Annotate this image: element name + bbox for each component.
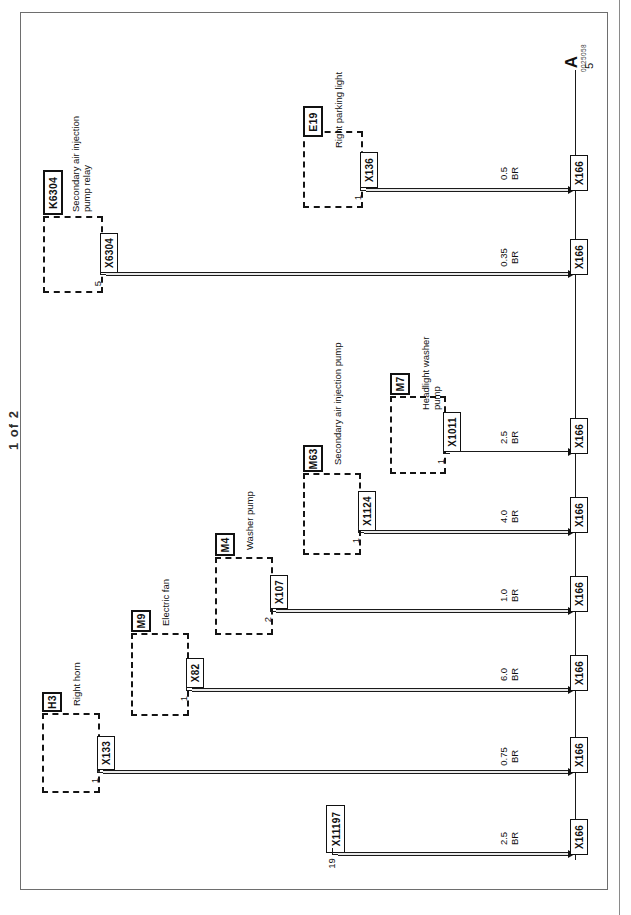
wiring-diagram-sheet: 1 of 2 A 5 0025058 E19 Right parking lig… [0, 0, 631, 915]
wire-color-text-h3: BR [508, 750, 519, 763]
connector-tag-x107: X107 [270, 575, 288, 609]
connector-tag-x11197: X11197 [326, 805, 345, 853]
component-id-label-k6304: K6304 [47, 177, 59, 209]
wire-gauge-h3: 0.75 BR [499, 737, 520, 777]
wire-gauge-text-m63: 4.0 [498, 510, 509, 523]
component-id-tag-k6304: K6304 [43, 170, 63, 215]
component-caption-h3: Right horn [72, 662, 83, 706]
wire-run-e19 [366, 188, 569, 192]
component-id-label-h3: H3 [46, 695, 58, 709]
connector-tag-x133: X133 [97, 736, 115, 770]
connector-label-x1124: X1124 [362, 496, 373, 525]
connector-label-x11197: X11197 [330, 812, 341, 847]
pin-number-x6304: 5 [92, 281, 103, 286]
wire-color-text-m9: BR [508, 668, 519, 681]
ground-terminal-tag-h3: X166 [570, 737, 588, 773]
component-caption-m7: Headlight washer pump [421, 337, 442, 410]
ground-terminal-tag-e19: X166 [570, 155, 588, 191]
wire-color-text-e19: BR [508, 167, 519, 180]
component-id-label-m4: M4 [219, 537, 231, 552]
wire-gauge-text-m7: 2.5 [498, 431, 509, 444]
ground-terminal-tag-x11197: X166 [570, 819, 588, 855]
page-number: 1 of 2 [6, 400, 21, 460]
ground-terminal-tag-m4: X166 [570, 576, 588, 612]
ground-terminal-tag-k6304: X166 [570, 239, 588, 275]
component-caption-m63: Secondary air injection pump [333, 342, 344, 465]
wire-color-text-m63: BR [508, 510, 519, 523]
ground-terminal-label-e19: X166 [574, 161, 585, 185]
wire-gauge-text-h3: 0.75 [498, 747, 509, 766]
component-caption-m9: Electric fan [161, 579, 172, 626]
wire-run-m63 [364, 530, 569, 534]
wire-gauge-text-m4: 1.0 [498, 589, 509, 602]
wire-gauge-text-x11197: 2.5 [498, 832, 509, 845]
component-id-label-m9: M9 [135, 614, 147, 629]
wire-gauge-k6304: 0.35 BR [499, 238, 520, 278]
component-id-tag-m9: M9 [131, 610, 151, 632]
ground-terminal-label-m63: X166 [574, 503, 585, 527]
pin-number-x136: 1 [352, 195, 363, 200]
wire-color-text-x11197: BR [508, 832, 519, 845]
component-id-tag-h3: H3 [42, 692, 62, 712]
pin-number-x1011: 1 [435, 459, 446, 464]
connector-label-x133: X133 [101, 741, 112, 765]
ground-terminal-label-h3: X166 [574, 743, 585, 767]
component-id-tag-m4: M4 [215, 533, 235, 556]
pin-number-x1124: 1 [350, 538, 361, 543]
wire-gauge-m63: 4.0 BR [499, 497, 520, 537]
component-id-tag-m7: M7 [390, 373, 410, 395]
ground-terminal-label-m9: X166 [574, 661, 585, 685]
component-box-m9 [131, 633, 189, 716]
component-caption-k6304: Secondary air injection pump relay [71, 116, 92, 212]
pin-number-x133: 1 [89, 778, 100, 783]
component-id-label-m63: M63 [307, 448, 319, 469]
connector-tag-x1011: X1011 [443, 412, 461, 452]
ground-terminal-label-m4: X166 [574, 582, 585, 606]
component-caption-e19: Right parking light [334, 72, 345, 148]
pin-number-x82: 1 [178, 696, 189, 701]
connector-tag-x136: X136 [360, 152, 378, 188]
wire-run-m4 [276, 609, 569, 613]
component-id-label-e19: E19 [307, 112, 319, 131]
ground-terminal-tag-m9: X166 [570, 655, 588, 691]
pin-number-x11197: 19 [326, 858, 337, 869]
component-id-tag-e19: E19 [303, 106, 323, 137]
wire-gauge-text-e19: 0.5 [498, 167, 509, 180]
ground-terminal-label-m7: X166 [574, 424, 585, 448]
wire-gauge-text-k6304: 0.35 [498, 248, 509, 267]
wire-gauge-text-m9: 6.0 [498, 668, 509, 681]
connector-label-x82: X82 [190, 664, 201, 682]
pin-number-x107: 2 [262, 617, 273, 622]
connector-label-x136: X136 [364, 158, 375, 182]
component-id-label-m7: M7 [394, 377, 406, 392]
wire-color-text-m4: BR [508, 589, 519, 602]
wire-gauge-x11197: 2.5 BR [499, 819, 520, 859]
connector-label-x1011: X1011 [447, 417, 458, 446]
wire-color-text-m7: BR [508, 431, 519, 444]
component-id-tag-m63: M63 [303, 445, 323, 472]
wire-color-text-k6304: BR [508, 251, 519, 264]
wire-gauge-e19: 0.5 BR [499, 154, 520, 194]
wire-run-x11197 [338, 852, 569, 856]
ground-terminal-tag-m63: X166 [570, 497, 588, 533]
ground-terminal-label-x11197: X166 [574, 825, 585, 849]
wire-gauge-m7: 2.5 BR [499, 418, 520, 458]
page-right-rule [619, 0, 620, 915]
connector-label-x107: X107 [274, 580, 285, 604]
connector-label-x6304: X6304 [104, 238, 115, 268]
connector-tag-x1124: X1124 [358, 491, 376, 531]
drawing-number: 0025058 [580, 44, 587, 72]
component-caption-m4: Washer pump [245, 491, 256, 550]
wire-gauge-m4: 1.0 BR [499, 576, 520, 616]
component-box-m4 [215, 557, 273, 635]
wire-gauge-m9: 6.0 BR [499, 655, 520, 695]
ground-terminal-tag-m7: X166 [570, 418, 588, 454]
ground-terminal-label-k6304: X166 [574, 245, 585, 269]
connector-tag-x6304: X6304 [100, 233, 118, 273]
